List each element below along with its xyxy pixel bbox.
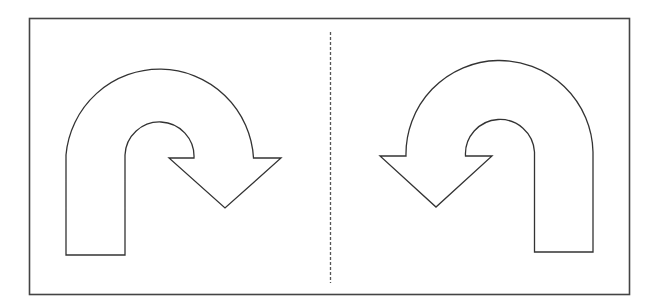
u-turn-diagram bbox=[0, 0, 659, 308]
u-turn-left-arrow-icon bbox=[380, 60, 593, 252]
u-turn-right-arrow-icon bbox=[66, 69, 281, 255]
